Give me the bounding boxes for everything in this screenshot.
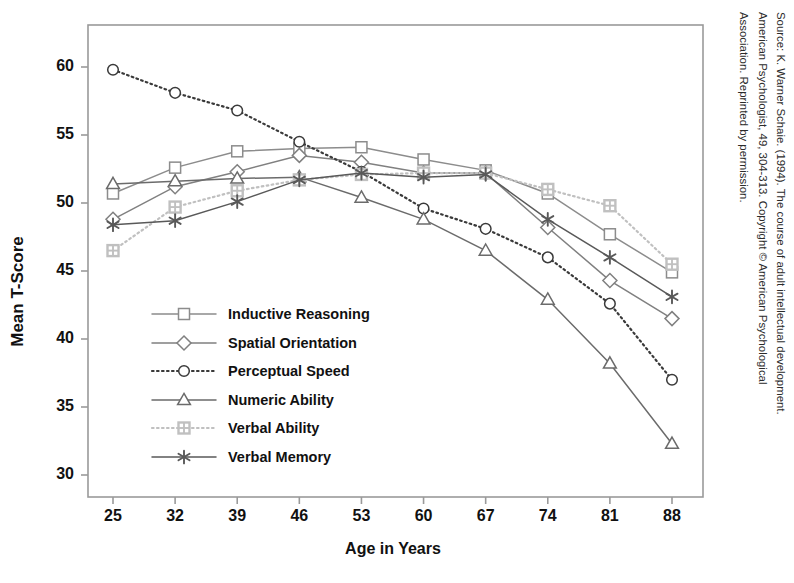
legend-item-verbal-memory[interactable]: Verbal Memory (150, 443, 410, 472)
x-tick-25: 25 (93, 507, 133, 525)
legend-label: Inductive Reasoning (218, 306, 370, 322)
legend-item-numeric-ability[interactable]: Numeric Ability (150, 386, 410, 415)
legend-key-triangle-icon (150, 389, 218, 411)
legend-key-circle-icon (150, 360, 218, 382)
legend-key-square-icon (150, 303, 218, 325)
source-line-1: Source: K. Warner Schaie. (1994). The co… (772, 12, 790, 527)
legend-label: Spatial Orientation (218, 335, 357, 351)
legend-key-diamond-icon (150, 332, 218, 354)
y-tick-30: 30 (40, 465, 74, 483)
x-tick-67: 67 (466, 507, 506, 525)
legend-label: Verbal Ability (218, 420, 319, 436)
x-tick-88: 88 (652, 507, 692, 525)
chart-plot-area (0, 0, 794, 583)
y-tick-55: 55 (40, 125, 74, 143)
chart-legend: Inductive ReasoningSpatial OrientationPe… (150, 300, 410, 471)
source-line-3: Association. Reprinted by permission. (735, 12, 753, 527)
x-tick-46: 46 (279, 507, 319, 525)
y-tick-35: 35 (40, 397, 74, 415)
y-tick-45: 45 (40, 261, 74, 279)
source-citation: Source: K. Warner Schaie. (1994). The co… (712, 12, 790, 527)
y-tick-60: 60 (40, 57, 74, 75)
legend-item-spatial-orientation[interactable]: Spatial Orientation (150, 329, 410, 358)
x-tick-74: 74 (528, 507, 568, 525)
legend-item-verbal-ability[interactable]: Verbal Ability (150, 414, 410, 443)
legend-key-asterisk-icon (150, 446, 218, 468)
legend-label: Numeric Ability (218, 392, 334, 408)
legend-label: Verbal Memory (218, 449, 331, 465)
figure-container: Mean T-Score 30354045505560 253239465360… (0, 0, 794, 583)
x-tick-60: 60 (404, 507, 444, 525)
legend-key-crossed-square-icon (150, 417, 218, 439)
y-tick-40: 40 (40, 329, 74, 347)
legend-item-perceptual-speed[interactable]: Perceptual Speed (150, 357, 410, 386)
x-tick-32: 32 (155, 507, 195, 525)
legend-item-inductive-reasoning[interactable]: Inductive Reasoning (150, 300, 410, 329)
x-tick-39: 39 (217, 507, 257, 525)
x-axis-title: Age in Years (113, 540, 673, 558)
legend-label: Perceptual Speed (218, 363, 350, 379)
source-line-2: American Psychologist, 49, 304-313. Copy… (753, 12, 771, 527)
x-tick-81: 81 (590, 507, 630, 525)
y-tick-50: 50 (40, 193, 74, 211)
x-tick-53: 53 (341, 507, 381, 525)
